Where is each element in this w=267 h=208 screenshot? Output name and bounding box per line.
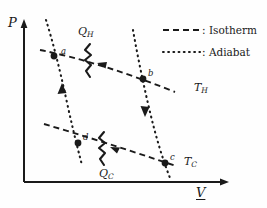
qc-symbol: Q	[99, 167, 108, 180]
y-axis-arrowhead	[21, 19, 28, 28]
state-point-label-b: b	[148, 69, 153, 78]
axes-group	[21, 19, 229, 185]
legend-entry-adiabat: : Adiabat	[202, 47, 250, 58]
adiabat-left-arrowhead	[58, 83, 67, 94]
legend-isotherm-label: Isotherm	[209, 24, 257, 36]
y-axis-label: P	[8, 16, 17, 29]
legend-samples	[163, 30, 200, 52]
heat-flow-label-qc: QC	[99, 168, 114, 180]
state-point-c	[162, 160, 169, 167]
x-axis-label: V	[196, 186, 205, 199]
heat-flow-label-qh: QH	[78, 26, 94, 38]
state-point-label-d: d	[83, 133, 88, 142]
adiabat-right-arrowhead	[141, 106, 150, 117]
legend-entry-isotherm: : Isotherm	[202, 25, 257, 36]
x-axis-arrowhead	[220, 179, 229, 186]
tc-subscript: C	[191, 160, 197, 169]
heat-flow-qc-squiggle	[99, 132, 105, 165]
qc-subscript: C	[108, 172, 114, 181]
legend-isotherm-separator: :	[202, 24, 206, 36]
state-point-b	[140, 76, 147, 83]
heat-flow-qh-squiggle	[85, 44, 91, 77]
state-point-label-a: a	[61, 47, 66, 56]
state-point-label-c: c	[170, 153, 175, 162]
qh-symbol: Q	[78, 25, 87, 38]
isotherm-hot-label: TH	[194, 82, 208, 94]
carnot-cycle-diagram: P V a b c d QH QC TH TC : Isotherm : Adi…	[0, 0, 267, 208]
isotherm-cold-arrowhead	[110, 147, 120, 154]
isotherm-cold-curve	[44, 124, 176, 166]
isotherm-cold-label: TC	[184, 156, 197, 168]
state-point-a	[51, 53, 58, 60]
state-point-d	[75, 140, 82, 147]
th-subscript: H	[201, 86, 208, 95]
legend-adiabat-separator: :	[202, 46, 206, 58]
legend-adiabat-label: Adiabat	[209, 46, 250, 58]
qh-subscript: H	[87, 30, 94, 39]
